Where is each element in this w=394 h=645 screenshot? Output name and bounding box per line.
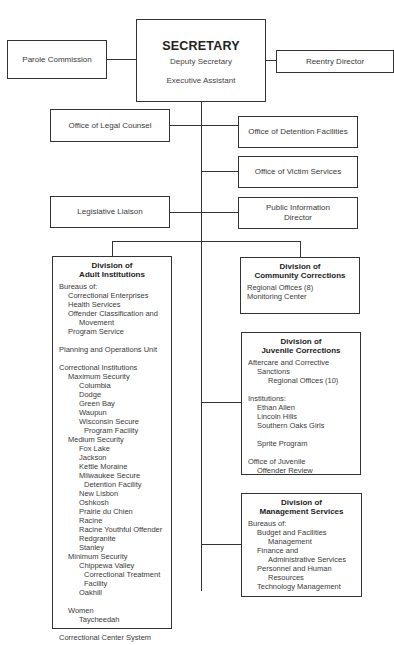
list-spacer — [248, 385, 360, 394]
list-item: Correctional Institutions — [59, 363, 171, 372]
list-item: Sprite Program — [248, 439, 360, 448]
list-item: Correctional Enterprises — [59, 291, 171, 300]
list-item: Waupun — [59, 408, 171, 417]
reentry-director-box[interactable]: Reentry Director — [276, 50, 394, 73]
list-item: New Lisbon — [59, 489, 171, 498]
list-item: Columbia — [59, 381, 171, 390]
list-item: Institutions: — [248, 394, 360, 403]
list-item: Facility — [59, 579, 171, 588]
list-item: Minimum Security — [59, 552, 171, 561]
list-item: Dodge — [59, 390, 171, 399]
community-title-line2: Community Corrections — [241, 271, 359, 280]
management-services-list: Bureaus of:Budget and FacilitiesManageme… — [248, 519, 361, 591]
adult-institutions-list: Bureaus of:Correctional EnterprisesHealt… — [59, 282, 171, 642]
list-item: Offender Classification and — [59, 309, 171, 318]
main-trunk-line — [201, 102, 202, 591]
list-item: Technology Management — [248, 582, 361, 591]
victim-connector — [201, 171, 238, 172]
detention-facilities-label: Office of Detention Facilities — [248, 127, 347, 137]
list-item: Milwaukee Secure — [59, 471, 171, 480]
list-item: Fox Lake — [59, 444, 171, 453]
juvenile-title-line1: Division of — [242, 337, 360, 346]
management-title-line2: Management Services — [242, 507, 361, 516]
management-connector-h — [201, 544, 241, 545]
list-item: Ethan Allen — [248, 403, 360, 412]
list-item: Bureaus of: — [59, 282, 171, 291]
adult-institutions-box[interactable]: Division of Adult Institutions Bureaus o… — [52, 256, 172, 629]
list-item: Medium Security — [59, 435, 171, 444]
juvenile-title-line2: Juvenile Corrections — [242, 346, 360, 355]
list-item: Offender Review — [248, 466, 360, 475]
community-corrections-list: Regional Offices (8)Monitoring Center — [247, 283, 359, 301]
victim-services-label: Office of Victim Services — [255, 167, 341, 177]
juvenile-corrections-list: Aftercare and CorrectiveSanctionsRegiona… — [248, 358, 360, 475]
parole-commission-box[interactable]: Parole Commission — [7, 40, 107, 79]
management-title-line1: Division of — [242, 498, 361, 507]
community-title-line1: Division of — [241, 262, 359, 271]
list-item: Women — [59, 606, 171, 615]
community-drop-line — [300, 241, 301, 257]
list-item: Kettle Moraine — [59, 462, 171, 471]
divisions-crossbar — [112, 241, 301, 242]
management-connector — [201, 590, 202, 591]
parole-connector — [107, 59, 136, 60]
list-item: Correctional Center System — [59, 633, 171, 642]
list-item: Stanley — [59, 543, 171, 552]
list-spacer — [59, 336, 171, 345]
list-item: Program Service — [59, 327, 171, 336]
management-services-box[interactable]: Division of Management Services Bureaus … — [241, 493, 362, 597]
list-item: Green Bay — [59, 399, 171, 408]
list-item: Management — [248, 537, 361, 546]
list-item: Racine Youthful Offender — [59, 525, 171, 534]
list-item: Budget and Facilities — [248, 528, 361, 537]
reentry-director-label: Reentry Director — [306, 57, 364, 67]
list-spacer — [248, 430, 360, 439]
list-spacer — [59, 597, 171, 606]
adult-title-line1: Division of — [53, 261, 171, 270]
public-information-label-line1: Public Information — [266, 203, 330, 213]
list-item: Health Services — [59, 300, 171, 309]
victim-services-box[interactable]: Office of Victim Services — [238, 156, 358, 188]
list-item: Southern Oaks Girls — [248, 421, 360, 430]
community-corrections-box[interactable]: Division of Community Corrections Region… — [240, 257, 360, 314]
list-item: Administrative Services — [248, 555, 361, 564]
public-information-label-line2: Director — [284, 213, 312, 223]
list-item: Oakhill — [59, 588, 171, 597]
list-item: Personnel and Human — [248, 564, 361, 573]
list-item: Regional Offices (10) — [248, 376, 360, 385]
list-item: Chippewa Valley — [59, 561, 171, 570]
list-item: Finance and — [248, 546, 361, 555]
legislative-liaison-box[interactable]: Legislative Liaison — [50, 196, 170, 228]
list-item: Planning and Operations Unit — [59, 345, 171, 354]
list-item: Correctional Treatment — [59, 570, 171, 579]
list-item: Office of Juvenile — [248, 457, 360, 466]
juvenile-corrections-box[interactable]: Division of Juvenile Corrections Afterca… — [241, 332, 361, 475]
legislative-liaison-label: Legislative Liaison — [77, 207, 142, 217]
list-item: Oshkosh — [59, 498, 171, 507]
list-item: Resources — [248, 573, 361, 582]
list-item: Lincoln Hills — [248, 412, 360, 421]
list-spacer — [59, 354, 171, 363]
liaison-pubinfo-connector — [170, 212, 238, 213]
secretary-box[interactable]: SECRETARY Deputy Secretary Executive Ass… — [136, 19, 266, 102]
legal-counsel-box[interactable]: Office of Legal Counsel — [50, 109, 170, 142]
deputy-secretary-label: Deputy Secretary — [137, 57, 265, 66]
list-spacer — [248, 448, 360, 457]
list-item: Regional Offices (8) — [247, 283, 359, 292]
reentry-connector — [266, 60, 276, 61]
legal-counsel-label: Office of Legal Counsel — [68, 121, 151, 131]
secretary-title: SECRETARY — [137, 39, 265, 53]
list-item: Jackson — [59, 453, 171, 462]
list-item: Redgranite — [59, 534, 171, 543]
adult-drop-line — [112, 241, 113, 256]
adult-title-line2: Adult Institutions — [53, 270, 171, 279]
executive-assistant-label: Executive Assistant — [137, 76, 265, 85]
list-item: Monitoring Center — [247, 292, 359, 301]
detention-facilities-box[interactable]: Office of Detention Facilities — [238, 116, 358, 148]
list-item: Movement — [59, 318, 171, 327]
legal-detention-connector — [170, 125, 238, 126]
list-item: Taycheedah — [59, 615, 171, 624]
list-item: Program Facility — [59, 426, 171, 435]
list-item: Maximum Security — [59, 372, 171, 381]
public-information-box[interactable]: Public Information Director — [238, 197, 358, 229]
